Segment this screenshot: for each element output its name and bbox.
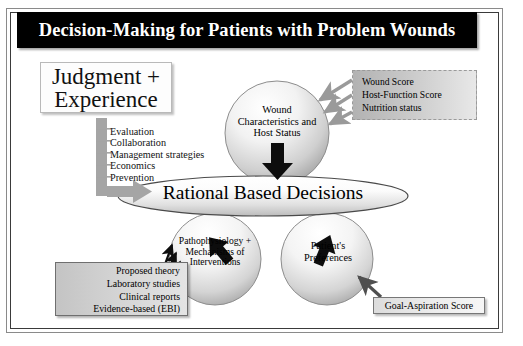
evidence-item: Evidence-based (EBI)	[56, 303, 180, 316]
evidence-item: Clinical reports	[56, 291, 180, 304]
score-item: Wound Score	[362, 75, 476, 88]
central-ellipse-label: Rational Based Decisions	[120, 182, 406, 204]
wound-line-3: Host Status	[222, 127, 332, 139]
wound-circle-label: Wound Characteristics and Host Status	[222, 104, 332, 139]
pref-line-2: Preferences	[283, 252, 373, 264]
judgment-line-2: Experience	[54, 88, 157, 111]
evidence-sources-box: Proposed theory Laboratory studies Clini…	[55, 262, 188, 316]
judgment-experience-box: Judgment + Experience	[40, 62, 172, 113]
goal-box-label: Goal-Aspiration Score	[385, 300, 473, 311]
list-item: Evaluation	[110, 126, 225, 137]
score-item: Host-Function Score	[362, 88, 476, 101]
wound-line-2: Characteristics and	[222, 116, 332, 128]
process-list: Evaluation Collaboration Management stra…	[110, 126, 225, 183]
judgment-line-1: Judgment +	[52, 65, 160, 88]
list-item: Collaboration	[110, 137, 225, 148]
pref-line-1: Patient's	[283, 240, 373, 252]
patho-line-1: Pathophysiology +	[160, 236, 270, 247]
score-inputs-box: Wound Score Host-Function Score Nutritio…	[352, 70, 477, 120]
list-item: Management strategies	[110, 149, 225, 160]
preferences-circle-label: Patient's Preferences	[283, 240, 373, 263]
diagram-title-bar: Decision-Making for Patients with Proble…	[17, 12, 477, 48]
evidence-item: Proposed theory	[56, 265, 180, 278]
page-title: Decision-Making for Patients with Proble…	[39, 20, 455, 41]
evidence-item: Laboratory studies	[56, 278, 180, 291]
list-item: Economics	[110, 160, 225, 171]
wound-line-1: Wound	[222, 104, 332, 116]
score-item: Nutrition status	[362, 101, 476, 114]
goal-aspiration-score-box: Goal-Aspiration Score	[373, 297, 485, 314]
